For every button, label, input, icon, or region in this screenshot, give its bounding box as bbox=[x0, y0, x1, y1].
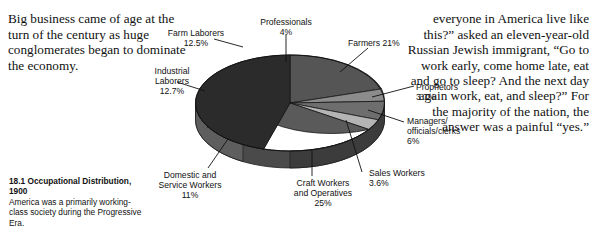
pie-label-managers: Managers/ officials/clerks 6% bbox=[407, 116, 477, 147]
pie-label-industrial-laborers: Industrial Laborers 12.7% bbox=[139, 66, 205, 97]
pie-label-craft-workers: Craft Workers and Operatives 25% bbox=[276, 178, 370, 209]
pie-label-farm-laborers: Farm Laborers 12.5% bbox=[148, 28, 244, 48]
pie-label-proprietors: Proprietors 3.7% bbox=[416, 82, 488, 102]
pie-label-professionals: Professionals 4% bbox=[248, 17, 324, 37]
textbook-page-figure: Big business came of age at the turn of … bbox=[0, 0, 595, 248]
pie-label-domestic-service: Domestic and Service Workers 11% bbox=[144, 170, 236, 201]
pie-label-farmers: Farmers 21% bbox=[348, 38, 432, 48]
pie-label-sales-workers: Sales Workers 3.6% bbox=[369, 168, 455, 188]
